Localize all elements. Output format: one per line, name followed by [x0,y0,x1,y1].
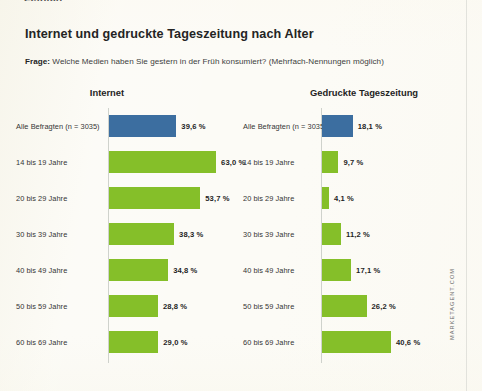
category-label: 20 bis 29 Jahre [243,194,294,203]
page-title: Internet und gedruckte Tageszeitung nach… [25,27,314,41]
chart-row: 20 bis 29 Jahre53,7 % [16,182,238,214]
panel-heading-gedruckte-tageszeitung: Gedruckte Tageszeitung [310,87,418,98]
bar [322,331,391,353]
bar-value-label: 17,1 % [356,266,380,275]
category-label: 14 bis 19 Jahre [16,158,67,167]
category-label: Alle Befragten (n = 3035) [243,122,327,131]
bar [109,151,216,173]
category-label: 14 bis 19 Jahre [243,158,294,167]
bar [109,115,176,137]
bar [109,187,200,209]
category-label: 60 bis 69 Jahre [16,338,67,347]
bar-value-label: 38,3 % [179,230,203,239]
category-label: 20 bis 29 Jahre [16,194,67,203]
category-label: Alle Befragten (n = 3035) [16,122,100,131]
question-label: Frage: [25,57,50,66]
chart-page: Zeitlich Internet und gedruckte Tageszei… [0,0,482,391]
chart-row: 60 bis 69 Jahre29,0 % [16,326,238,358]
bar-value-label: 39,6 % [181,122,205,131]
bar [322,295,367,317]
question-subtitle: Frage: Welche Medien haben Sie gestern i… [25,57,384,66]
bar-value-label: 40,6 % [396,338,420,347]
bar [322,151,338,173]
chart-row: 60 bis 69 Jahre40,6 % [243,326,465,358]
panel-heading-internet: Internet [90,87,124,98]
chart-row: 14 bis 19 Jahre9,7 % [243,146,465,178]
category-label: 50 bis 59 Jahre [243,302,294,311]
bar [109,223,174,245]
bar-value-label: 11,2 % [346,230,370,239]
bar-value-label: 53,7 % [205,194,229,203]
category-label: 60 bis 69 Jahre [243,338,294,347]
chart-row: 30 bis 39 Jahre38,3 % [16,218,238,250]
category-label: 30 bis 39 Jahre [16,230,67,239]
bar-value-label: 26,2 % [372,302,396,311]
marketagent-watermark: MARKETAGENT.COM [449,268,455,340]
bar [109,295,158,317]
chart-row: 40 bis 49 Jahre17,1 % [243,254,465,286]
category-label: 50 bis 59 Jahre [16,302,67,311]
bar-chart-gedruckte-tageszeitung: Alle Befragten (n = 3035)18,1 %14 bis 19… [243,108,465,363]
bar [109,331,158,353]
bar-value-label: 28,8 % [163,302,187,311]
bar-value-label: 18,1 % [358,122,382,131]
bar [322,223,341,245]
bar-value-label: 9,7 % [343,158,363,167]
question-text: Welche Medien haben Sie gestern in der F… [50,57,384,66]
chart-row: 14 bis 19 Jahre63,0 % [16,146,238,178]
cropped-header-text: Zeitlich [24,0,62,1]
chart-row: 50 bis 59 Jahre26,2 % [243,290,465,322]
bar-chart-internet: Alle Befragten (n = 3035)39,6 %14 bis 19… [16,108,238,363]
chart-row: 50 bis 59 Jahre28,8 % [16,290,238,322]
category-label: 30 bis 39 Jahre [243,230,294,239]
chart-row: Alle Befragten (n = 3035)18,1 % [243,110,465,142]
category-label: 40 bis 49 Jahre [16,266,67,275]
bar [322,115,353,137]
chart-row: 30 bis 39 Jahre11,2 % [243,218,465,250]
bar [322,259,351,281]
bar-value-label: 63,0 % [221,158,245,167]
bar-value-label: 4,1 % [334,194,354,203]
category-label: 40 bis 49 Jahre [243,266,294,275]
bar-value-label: 34,8 % [173,266,197,275]
chart-row: 20 bis 29 Jahre4,1 % [243,182,465,214]
bar [109,259,168,281]
page-margin-rule [466,0,467,391]
chart-row: Alle Befragten (n = 3035)39,6 % [16,110,238,142]
chart-row: 40 bis 49 Jahre34,8 % [16,254,238,286]
bar-value-label: 29,0 % [163,338,187,347]
bar [322,187,329,209]
